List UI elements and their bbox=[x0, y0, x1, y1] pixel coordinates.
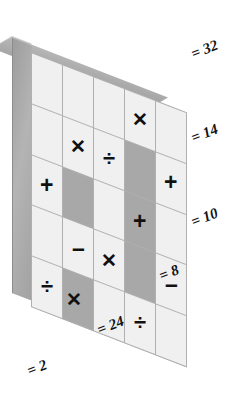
equation-label-row-2: = 14 bbox=[189, 121, 221, 147]
divide-icon: ÷ bbox=[134, 312, 146, 334]
divide-icon: ÷ bbox=[103, 148, 115, 170]
multiply-icon: ✕ bbox=[101, 251, 117, 270]
equation-label-row-1: = 32 bbox=[189, 37, 221, 63]
equation-label-row-3: = 10 bbox=[189, 205, 221, 231]
plus-icon: + bbox=[164, 171, 177, 194]
slab-left-face bbox=[12, 38, 32, 301]
grid-cell-r5c5[interactable] bbox=[156, 305, 186, 366]
multiply-icon: ✕ bbox=[66, 288, 82, 311]
multiply-icon: ✕ bbox=[132, 111, 148, 130]
divide-icon: ÷ bbox=[41, 276, 53, 298]
grid-cell-r5c4[interactable]: ÷ bbox=[125, 293, 155, 354]
grid-cell-r5c1[interactable]: ÷ bbox=[32, 257, 62, 318]
plus-icon: + bbox=[40, 174, 53, 197]
grid-cell-bottom-multiply[interactable]: ✕ bbox=[59, 286, 89, 312]
multiply-icon: ✕ bbox=[70, 137, 86, 156]
plus-icon: + bbox=[133, 210, 146, 233]
minus-icon: – bbox=[72, 237, 85, 260]
puzzle-figure: ✕ ✕ ÷ + + + – ✕ – ÷ ÷ bbox=[0, 0, 242, 406]
equation-label-col-2: = 2 bbox=[25, 356, 50, 379]
